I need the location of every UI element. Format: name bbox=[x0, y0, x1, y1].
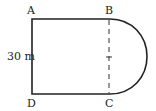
side-length-label: 30 m bbox=[7, 50, 35, 63]
figure-canvas: A B C D 30 m bbox=[0, 0, 156, 111]
vertex-label-c: C bbox=[105, 97, 113, 110]
semicircle-arc bbox=[110, 19, 147, 94]
vertex-label-d: D bbox=[27, 97, 36, 110]
vertex-label-a: A bbox=[26, 4, 36, 17]
rectangle-outline bbox=[32, 19, 110, 94]
vertex-label-b: B bbox=[105, 4, 113, 17]
